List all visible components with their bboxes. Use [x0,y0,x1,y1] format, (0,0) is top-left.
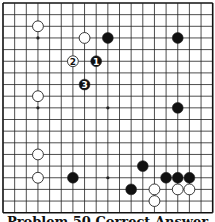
black-stone [184,172,195,183]
white-stone [149,184,160,195]
black-stone [172,33,183,44]
black-stone-3: 3 [79,79,90,90]
svg-text:2: 2 [70,57,76,67]
black-stone [102,33,113,44]
white-stone [79,33,90,44]
svg-text:1: 1 [93,57,99,67]
white-stone [184,184,195,195]
black-stone [67,172,78,183]
star-point [106,106,109,109]
white-stone [33,91,44,102]
svg-text:3: 3 [81,80,87,90]
white-stone [172,184,183,195]
black-stone [161,172,172,183]
black-stone [172,172,183,183]
white-stone [33,21,44,32]
go-board: 213 [0,0,215,214]
white-stone-2: 2 [67,56,78,67]
diagram-caption: Problem 50 Correct Answer [0,214,215,222]
black-stone [137,161,148,172]
black-stone-1: 1 [91,56,102,67]
star-point [36,36,39,39]
black-stone [126,184,137,195]
stones-layer: 213 [33,21,195,207]
star-point [106,176,109,179]
white-stone [149,196,160,207]
white-stone [33,172,44,183]
star-point [36,106,39,109]
white-stone [33,149,44,160]
black-stone [172,102,183,113]
